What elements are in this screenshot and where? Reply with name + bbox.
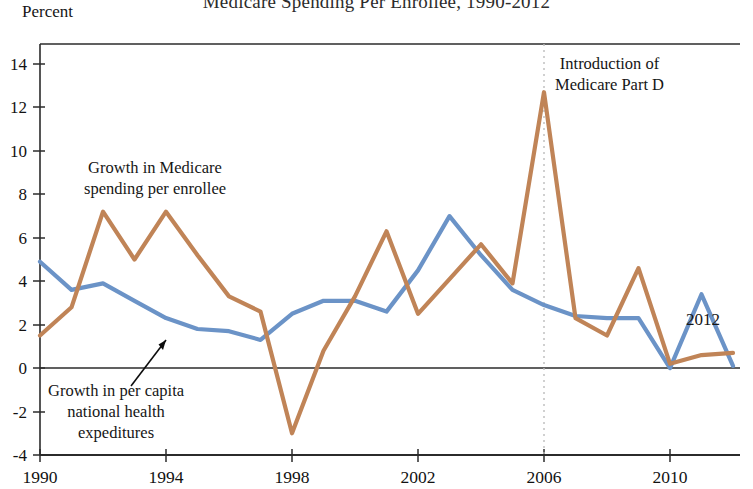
ytick-0: 0 bbox=[19, 359, 28, 378]
annotation-end-year: 2012 bbox=[686, 309, 720, 330]
annotation-partd-line2: Medicare Part D bbox=[555, 75, 664, 96]
ytick-6: 6 bbox=[19, 229, 28, 248]
ytick-neg4: -4 bbox=[13, 446, 28, 465]
ytick-neg2: -2 bbox=[13, 403, 27, 422]
annotation-percapita-line1: Growth in per capita bbox=[48, 381, 184, 402]
chart-figure: Medicare Spending Per Enrollee, 1990-201… bbox=[0, 0, 753, 489]
ytick-10: 10 bbox=[10, 142, 27, 161]
annotation-percapita-line2: national health bbox=[48, 402, 184, 423]
annotation-arrow bbox=[131, 340, 166, 386]
ytick-2: 2 bbox=[19, 316, 28, 335]
x-axis-tick-labels: 1990 1994 1998 2002 2006 2010 bbox=[23, 467, 688, 487]
annotation-medicare-line1: Growth in Medicare bbox=[84, 158, 226, 179]
xtick-1998: 1998 bbox=[275, 467, 310, 487]
xtick-1994: 1994 bbox=[149, 467, 184, 487]
ytick-12: 12 bbox=[10, 98, 27, 117]
y-axis-ticks bbox=[33, 64, 45, 455]
xtick-2006: 2006 bbox=[527, 467, 562, 487]
annotation-per-capita: Growth in per capita national health exp… bbox=[48, 381, 184, 443]
annotation-partd-line1: Introduction of bbox=[555, 54, 664, 75]
y-axis-tick-labels: 14 12 10 8 6 4 2 0 -2 -4 bbox=[10, 55, 28, 465]
annotation-medicare-spending: Growth in Medicare spending per enrollee bbox=[84, 158, 226, 200]
ytick-8: 8 bbox=[19, 185, 28, 204]
ytick-4: 4 bbox=[19, 272, 28, 291]
annotation-part-d: Introduction of Medicare Part D bbox=[555, 54, 664, 96]
xtick-1990: 1990 bbox=[23, 467, 58, 487]
xtick-2010: 2010 bbox=[653, 467, 688, 487]
ytick-14: 14 bbox=[10, 55, 28, 74]
annotation-medicare-line2: spending per enrollee bbox=[84, 179, 226, 200]
annotation-percapita-line3: expeditures bbox=[48, 423, 184, 444]
xtick-2002: 2002 bbox=[401, 467, 436, 487]
